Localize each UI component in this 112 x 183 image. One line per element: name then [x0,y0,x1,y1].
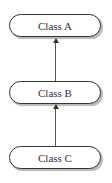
arrowhead-icon [53,38,59,43]
node-class-b: Class B [9,81,101,104]
edge-b-to-a [55,42,56,81]
node-label: Class B [38,87,72,99]
node-label: Class C [38,152,72,164]
node-class-c: Class C [9,146,101,169]
node-class-a: Class A [9,14,101,37]
edge-c-to-b [55,108,56,146]
node-label: Class A [38,20,72,32]
arrowhead-icon [53,104,59,109]
